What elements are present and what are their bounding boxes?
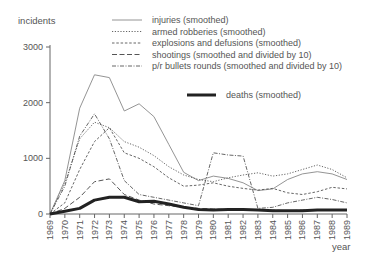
- y-tick-label: 3000: [23, 42, 43, 52]
- y-tick-label: 2000: [23, 98, 43, 108]
- y-tick-label: 0: [38, 209, 43, 219]
- legend-label: armed robberies (smoothed): [152, 27, 266, 37]
- legend: injuries (smoothed)armed robberies (smoo…: [112, 15, 342, 100]
- x-tick-label: 1988: [327, 220, 337, 240]
- x-tick-label: 1969: [45, 220, 55, 240]
- x-tick-label: 1984: [268, 220, 278, 240]
- x-tick-label: 1989: [342, 220, 352, 240]
- x-tick-label: 1971: [75, 220, 85, 240]
- x-tick-label: 1986: [297, 220, 307, 240]
- y-tick-label: 1000: [23, 153, 43, 163]
- line-chart: 0100020003000196919701971197219731974197…: [0, 0, 370, 267]
- x-tick-label: 1985: [283, 220, 293, 240]
- x-tick-label: 1975: [134, 220, 144, 240]
- x-tick-label: 1973: [104, 220, 114, 240]
- x-tick-label: 1974: [119, 220, 129, 240]
- y-axis-title: incidents: [18, 15, 56, 26]
- x-tick-label: 1978: [179, 220, 189, 240]
- x-tick-label: 1972: [90, 220, 100, 240]
- legend-label: shootings (smoothed and divided by 10): [152, 50, 312, 60]
- x-axis-title: year: [332, 241, 350, 252]
- x-tick-label: 1987: [312, 220, 322, 240]
- x-tick-label: 1970: [60, 220, 70, 240]
- x-tick-label: 1981: [223, 220, 233, 240]
- legend-label: injuries (smoothed): [152, 15, 229, 25]
- x-tick-label: 1982: [238, 220, 248, 240]
- x-tick-label: 1980: [208, 220, 218, 240]
- x-tick-label: 1977: [164, 220, 174, 240]
- x-tick-label: 1979: [194, 220, 204, 240]
- legend-label: explosions and defusions (smoothed): [152, 38, 301, 48]
- legend-label: p/r bullets rounds (smoothed and divided…: [152, 61, 342, 71]
- x-tick-label: 1983: [253, 220, 263, 240]
- legend-label-deaths: deaths (smoothed): [226, 90, 301, 100]
- x-tick-label: 1976: [149, 220, 159, 240]
